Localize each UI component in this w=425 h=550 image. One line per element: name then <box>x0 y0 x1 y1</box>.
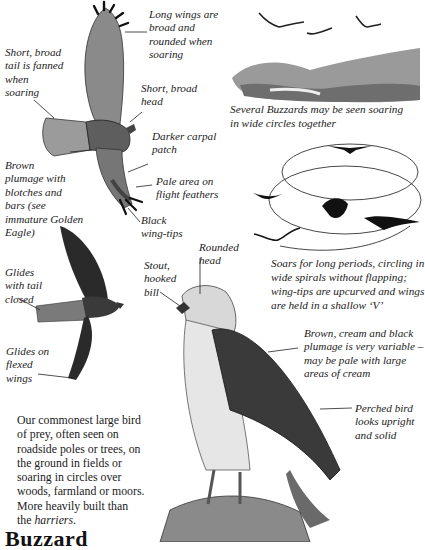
species-description: Our commonest large bird of prey, often … <box>17 413 144 527</box>
label-black-wingtips: Black wing-tips <box>141 214 183 241</box>
landscape-illustration <box>232 13 420 102</box>
label-brown-plumage: Brown plumage with blotches and bars (se… <box>5 159 83 239</box>
label-variable-plumage: Brown, cream and black plumage is very v… <box>304 327 423 381</box>
description-emphasis: harriers <box>34 513 73 527</box>
label-pale-area: Pale area on flight feathers <box>156 175 218 202</box>
description-end: . <box>73 513 76 527</box>
label-long-wings: Long wings are broad and rounded when so… <box>149 8 218 62</box>
label-hooked-bill: Stout, hooked bill <box>144 259 176 299</box>
species-title: Buzzard <box>5 527 88 550</box>
label-upright-posture: Perched bird looks upright and solid <box>355 402 414 442</box>
label-carpal-patch: Darker carpal patch <box>152 130 216 157</box>
caption-landscape: Several Buzzards may be seen soaring in … <box>230 102 403 130</box>
description-text: Our commonest large bird of prey, often … <box>17 413 144 527</box>
label-short-head: Short, broad head <box>141 82 197 109</box>
label-rounded-head: Rounded head <box>199 241 239 268</box>
spiral-flight-illustration <box>253 144 421 250</box>
label-glides-flexed-wings: Glides on flexed wings <box>6 345 49 385</box>
caption-spirals: Soars for long periods, circling in wide… <box>271 256 424 312</box>
label-fanned-tail: Short, broad tail is fanned when soaring <box>5 46 63 100</box>
label-glides-tail-closed: Glides with tail closed <box>5 266 42 306</box>
